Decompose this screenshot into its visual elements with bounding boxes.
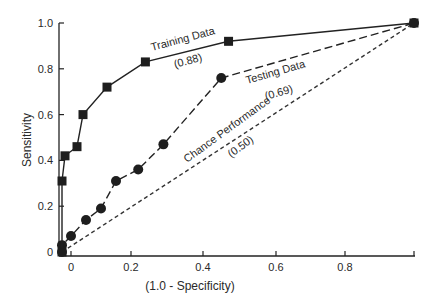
square-marker — [103, 83, 112, 92]
series-training-data — [58, 19, 419, 257]
series-line — [62, 23, 414, 252]
annotation-testing: Testing Data (0.69) — [244, 57, 307, 102]
training-label: Training Data — [149, 24, 216, 53]
circle-marker — [81, 215, 91, 225]
x-tick-label: 0.8 — [337, 261, 352, 273]
circle-marker — [66, 231, 76, 241]
roc-chart-svg: 00.20.40.60.81.0 00.20.40.60.8 (1.0 - Sp… — [0, 0, 430, 300]
square-marker — [61, 151, 70, 160]
x-tick-label: 0.4 — [195, 261, 210, 273]
roc-chart: 00.20.40.60.81.0 00.20.40.60.8 (1.0 - Sp… — [0, 0, 430, 300]
y-tick-label: 0.8 — [38, 63, 53, 75]
y-tick-label: 0.6 — [38, 109, 53, 121]
y-tick-label: 0.4 — [38, 154, 53, 166]
axes — [59, 23, 415, 256]
y-ticks: 00.20.40.60.81.0 — [38, 17, 64, 258]
x-tick-label: 0.6 — [268, 261, 283, 273]
square-marker — [79, 110, 88, 119]
y-tick-label: 1.0 — [38, 17, 53, 29]
y-tick-label: 0 — [47, 246, 53, 258]
square-marker — [410, 19, 419, 28]
testing-label: Testing Data — [244, 57, 307, 86]
circle-marker — [158, 139, 168, 149]
x-tick-label: 0.2 — [123, 261, 138, 273]
square-marker — [224, 37, 233, 46]
square-marker — [58, 248, 67, 257]
y-axis-title: Sensitivity — [20, 113, 34, 167]
x-axis-title: (1.0 - Specificity) — [145, 279, 234, 293]
square-marker — [141, 57, 150, 66]
square-marker — [58, 177, 67, 186]
series-line — [62, 23, 414, 252]
circle-marker — [216, 73, 226, 83]
circle-marker — [111, 176, 121, 186]
circle-marker — [96, 203, 106, 213]
x-ticks: 00.20.40.60.8 — [68, 251, 414, 273]
series-line — [62, 23, 414, 252]
series-testing-data — [57, 18, 419, 257]
chance-label: Chance Performance — [181, 94, 272, 165]
y-tick-label: 0.2 — [38, 200, 53, 212]
chance-auc: (0.50) — [225, 133, 255, 160]
square-marker — [73, 142, 82, 151]
x-tick-label: 0 — [68, 261, 74, 273]
circle-marker — [133, 165, 143, 175]
series-chance-performance — [62, 23, 414, 252]
annotation-chance: Chance Performance (0.50) — [181, 94, 272, 165]
